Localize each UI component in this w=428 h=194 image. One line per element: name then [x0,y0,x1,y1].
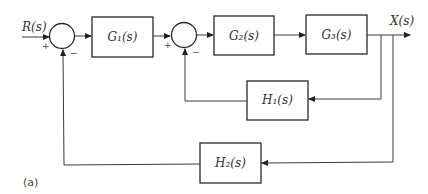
block-g3: G₃(s) [306,15,367,54]
figure-caption: (a) [23,176,38,189]
output-label: X(s) [389,14,414,28]
h1-label: H₁(s) [261,93,293,107]
sum1-minus-sign: − [70,48,78,58]
block-g2: G₂(s) [214,16,274,55]
g2-label: G₂(s) [229,29,259,43]
block-diagram: R(s) + − G₁(s) + − G₂(s) G₃(s) X(s) [0,0,428,194]
sum2-minus-sign: − [192,47,200,57]
block-g1: G₁(s) [92,17,153,57]
input-label: R(s) [21,20,47,34]
output-signal: X(s) [367,14,414,35]
summing-junction-2: + − [164,23,200,58]
input-signal: R(s) [21,20,49,37]
summing-junction-1: + − [42,24,78,59]
sum1-plus-sign: + [42,41,50,51]
sum2-plus-sign: + [164,40,172,50]
g3-label: G₃(s) [322,28,352,42]
h2-label: H₂(s) [214,156,246,170]
g1-label: G₁(s) [108,30,138,44]
